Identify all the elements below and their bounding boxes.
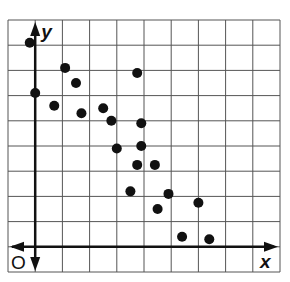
y-axis-up-arrow-icon: [30, 22, 40, 36]
data-point: [98, 103, 108, 113]
x-axis-left-arrow-icon: [10, 242, 24, 252]
data-point: [49, 101, 59, 111]
origin-label: O: [11, 252, 26, 273]
data-point: [132, 68, 142, 78]
y-axis-label: y: [40, 21, 53, 42]
data-point: [25, 38, 35, 48]
data-point: [163, 189, 173, 199]
data-point: [177, 232, 187, 242]
data-point: [71, 78, 81, 88]
data-point: [106, 116, 116, 126]
data-points: [25, 38, 215, 245]
data-point: [132, 160, 142, 170]
data-point: [150, 160, 160, 170]
data-point: [60, 63, 70, 73]
data-point: [136, 141, 146, 151]
y-axis-down-arrow-icon: [30, 257, 40, 271]
scatter-plot: y x O: [0, 0, 290, 282]
data-point: [76, 108, 86, 118]
data-point: [153, 204, 163, 214]
x-axis-label: x: [259, 251, 272, 272]
data-point: [125, 186, 135, 196]
data-point: [136, 118, 146, 128]
data-point: [112, 144, 122, 154]
data-point: [193, 198, 203, 208]
data-point: [30, 88, 40, 98]
data-point: [204, 234, 214, 244]
